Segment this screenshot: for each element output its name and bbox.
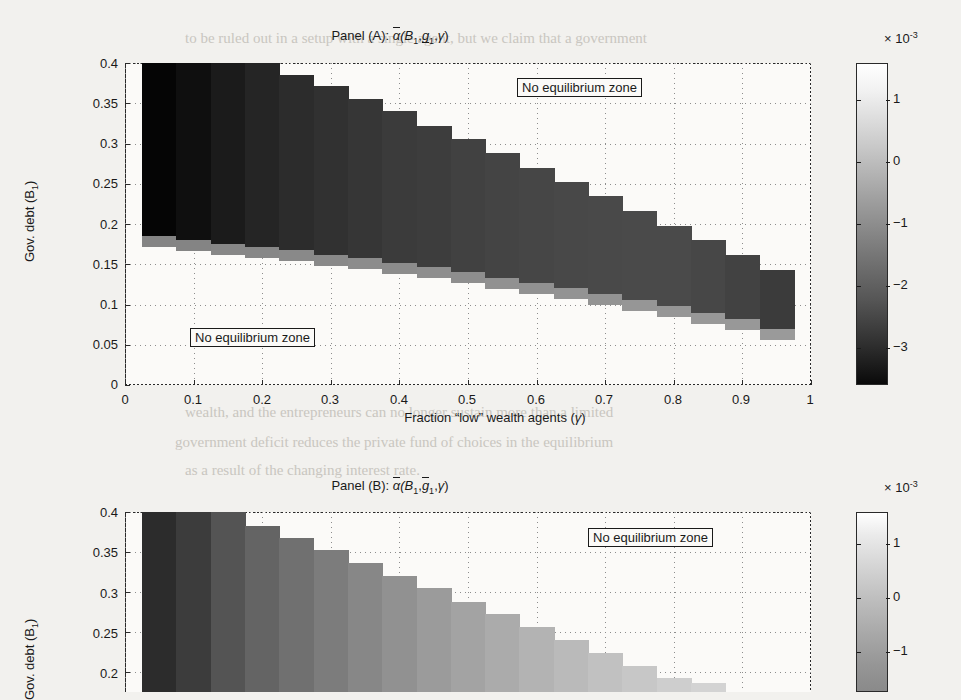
panel-a-heatmap-cell <box>657 226 692 307</box>
panel-a-xtick <box>537 380 538 385</box>
panel-a-heatmap-cell <box>554 182 589 288</box>
panel-a-xtick <box>125 380 126 385</box>
panel-a-xtick <box>399 380 400 385</box>
panel-a-y-axis-title: Gov. debt (B1) <box>22 181 40 262</box>
panel-a-heatmap-edge-cell <box>314 255 349 266</box>
panel-b-heatmap-cell <box>588 653 623 692</box>
panel-b-ylabel-sub: 1 <box>30 623 40 628</box>
panel-a-heatmap-edge-cell <box>622 300 657 311</box>
panel-a-heatmap-edge-cell <box>657 306 692 317</box>
panel-b-heatmap-cell <box>314 550 349 692</box>
panel-a-colorbar-tick-label: −3 <box>893 339 908 354</box>
panel-a-colorbar-tick <box>886 100 890 101</box>
panel-a-heatmap-edge-cell <box>451 272 486 283</box>
panel-a-heatmap-cell <box>382 111 417 262</box>
panel-a-ylabel-text: Gov. debt (B <box>22 190 37 262</box>
panel-a-no-equilibrium-zone-top: No equilibrium zone <box>517 78 642 97</box>
panel-b-colorbar-tick <box>886 652 890 653</box>
panel-a-heatmap-edge-cell <box>211 244 246 255</box>
panel-a-ytick-label: 0.35 <box>55 96 118 111</box>
panel-a-heatmap-edge-cell <box>279 250 314 261</box>
bleed-line: government deficit reduces the private f… <box>175 434 613 451</box>
panel-b-ytick <box>125 552 130 553</box>
panel-b-heatmap-cell <box>485 614 520 692</box>
panel-b-colorbar-tick <box>886 544 890 545</box>
panel-a-xtick <box>262 380 263 385</box>
panel-b-ytick <box>125 592 130 593</box>
panel-a-ytick <box>125 144 130 145</box>
panel-b-title: Panel (B): α(B1,g1,γ) <box>235 478 545 496</box>
panel-a-xtick <box>468 380 469 385</box>
panel-a-heatmap-cell <box>279 75 314 250</box>
panel-b-arg-g: g <box>422 478 429 493</box>
panel-a-heatmap-edge-cell <box>142 236 177 247</box>
panel-a-ytick <box>125 184 130 185</box>
panel-b-colorbar-exp-prefix: × 10 <box>884 480 910 495</box>
panel-b-colorbar-tick-label: −1 <box>893 643 908 658</box>
panel-a-colorbar-tick-inner <box>857 348 861 349</box>
panel-a-colorbar-tick-label: 0 <box>893 153 900 168</box>
panel-b-heatmap-cell <box>451 602 486 692</box>
panel-a-arg-g: g <box>422 28 429 43</box>
panel-a-xtick-label: 0.9 <box>723 392 759 407</box>
panel-a-ytick <box>125 385 130 386</box>
panel-a-xtick-label: 0.5 <box>449 392 485 407</box>
panel-b-ytick <box>125 512 130 513</box>
panel-a-title: Panel (A): α(B1,g1,γ) <box>235 28 545 46</box>
panel-a-heatmap-cell <box>760 270 795 329</box>
panel-a-title-prefix: Panel (A): <box>331 28 392 43</box>
panel-b-heatmap-cell <box>211 512 246 692</box>
panel-b-heatmap-cell <box>657 678 692 692</box>
panel-a-colorbar-tick-label: 1 <box>893 91 900 106</box>
panel-a-xtick-label: 0.2 <box>244 392 280 407</box>
panel-a-ytick <box>125 345 130 346</box>
panel-a-ytick <box>125 63 130 64</box>
panel-a-heatmap-edge-cell <box>691 313 726 324</box>
panel-b-colorbar-tick-inner <box>857 544 861 545</box>
panel-a-colorbar-tick-inner <box>857 224 861 225</box>
panel-a-ytick-label: 0 <box>55 377 118 392</box>
panel-a-heatmap-cell <box>588 196 623 294</box>
panel-b-heatmap-cell <box>279 538 314 692</box>
panel-a-xtick <box>331 380 332 385</box>
panel-a-ytick <box>125 103 130 104</box>
panel-a-close: ) <box>444 28 448 43</box>
panel-b-close: ) <box>444 478 448 493</box>
panel-a-heatmap-cell <box>485 153 520 278</box>
panel-b-alpha: α <box>393 478 400 493</box>
panel-a-xtick-label: 0.8 <box>655 392 691 407</box>
panel-a-ytick <box>125 224 130 225</box>
panel-a-heatmap-edge-cell <box>485 278 520 289</box>
panel-a-ytick-label: 0.25 <box>55 176 118 191</box>
panel-b-colorbar-tick-label: 1 <box>893 535 900 550</box>
panel-a-xtick-label: 0.7 <box>586 392 622 407</box>
panel-a-heatmap-cell <box>519 168 554 283</box>
panel-a-xtick-label: 1 <box>792 392 828 407</box>
panel-a-alpha: α <box>393 28 400 43</box>
panel-a-xtick-label: 0.1 <box>175 392 211 407</box>
panel-a-colorbar-exp-prefix: × 10 <box>884 31 910 46</box>
panel-a-ytick <box>125 264 130 265</box>
panel-b-colorbar-tick <box>886 598 890 599</box>
panel-a-heatmap-cell <box>691 240 726 312</box>
panel-a-xtick-label: 0.6 <box>518 392 554 407</box>
panel-b-title-prefix: Panel (B): <box>331 478 392 493</box>
panel-a-ytick-label: 0.3 <box>55 136 118 151</box>
panel-a-colorbar-tick <box>886 162 890 163</box>
panel-b-heatmap-cell <box>176 512 211 692</box>
panel-a-heatmap-cell <box>314 86 349 255</box>
panel-a-ytick-label: 0.1 <box>55 297 118 312</box>
panel-b-heatmap-cell <box>519 627 554 692</box>
panel-a-ytick-label: 0.15 <box>55 257 118 272</box>
panel-b-colorbar-exp-value: -3 <box>910 479 918 489</box>
panel-a-heatmap-edge-cell <box>588 294 623 305</box>
panel-a-heatmap-cell <box>176 63 211 240</box>
panel-a-xtick <box>605 380 606 385</box>
panel-b-colorbar[interactable] <box>856 512 888 692</box>
panel-b-heatmap-cell <box>691 683 726 692</box>
panel-a-heatmap-cell <box>622 211 657 300</box>
panel-b-heatmap-cell <box>417 588 452 692</box>
panel-a-ytick-label: 0.05 <box>55 337 118 352</box>
panel-b-no-equilibrium-zone: No equilibrium zone <box>588 528 713 547</box>
panel-b-gridline-v <box>125 512 126 692</box>
